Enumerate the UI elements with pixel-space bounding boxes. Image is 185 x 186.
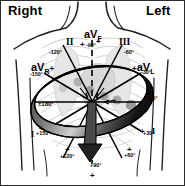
degree-label-minus-60: -60° bbox=[124, 50, 134, 55]
lead-label-ii: II bbox=[66, 38, 73, 48]
polarity-plus-minus-90: + bbox=[80, 41, 85, 49]
degree-label-minus-120: -120° bbox=[49, 50, 62, 55]
lead-label-avr-sign: + bbox=[50, 64, 55, 73]
polarity-plus-60: + bbox=[127, 146, 132, 154]
lead-label-i-left: I bbox=[31, 131, 34, 139]
degree-label-plus-minus-180: ±180° bbox=[38, 101, 54, 107]
degree-label-minus-90: -90° bbox=[86, 43, 96, 48]
polarity-plus-top: + bbox=[96, 38, 101, 46]
polarity-plus-zero: + bbox=[146, 90, 151, 98]
polarity-plus-30: + bbox=[140, 128, 145, 136]
degree-label-minus-30: -30° bbox=[141, 70, 151, 75]
ecg-hexaxial-figure: Right Left aVF aVR+ +aVL II III I I -120… bbox=[0, 0, 185, 186]
orientation-label-left: Left bbox=[146, 4, 171, 17]
lead-label-iii: III bbox=[119, 38, 130, 48]
polarity-plus-90: + bbox=[90, 172, 95, 180]
orientation-label-right: Right bbox=[8, 4, 42, 17]
polarity-plus-150: + bbox=[39, 125, 44, 133]
polarity-plus-120: + bbox=[65, 146, 70, 154]
degree-label-plus-120: +120° bbox=[60, 154, 74, 159]
degree-label-minus-150: -150° bbox=[30, 72, 43, 77]
degree-label-plus-90: +90° bbox=[90, 163, 101, 168]
